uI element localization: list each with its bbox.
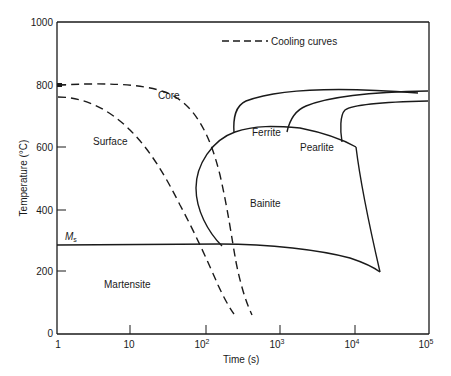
- x-tick-1: 1: [55, 339, 61, 350]
- y-tick-200: 200: [36, 266, 53, 277]
- x-tick-10000: 104: [344, 338, 359, 350]
- x-tick-1000: 103: [269, 338, 284, 350]
- core-label: Core: [158, 90, 180, 101]
- x-tick-100000: 105: [418, 338, 433, 350]
- core-cooling-curve: [58, 84, 252, 315]
- ferrite-label: Ferrite: [252, 127, 281, 138]
- core-start-marker: [57, 83, 62, 87]
- y-tick-600: 600: [36, 142, 53, 153]
- ms-label: Ms: [65, 231, 77, 243]
- legend: Cooling curves: [222, 36, 337, 47]
- y-tick-0: 0: [47, 328, 53, 339]
- pearlite-finish-curve: [341, 101, 428, 142]
- martensite-label: Martensite: [104, 279, 151, 290]
- surface-label: Surface: [93, 136, 128, 147]
- x-tick-100: 102: [194, 338, 209, 350]
- cct-diagram: 1000 800 600 400 200 0 1 10 102 103 104 …: [0, 0, 451, 376]
- pearlite-label: Pearlite: [300, 142, 334, 153]
- legend-label: Cooling curves: [271, 36, 337, 47]
- y-tick-400: 400: [36, 205, 53, 216]
- x-axis-title: Time (s): [223, 354, 259, 365]
- pearlite-start-curve: [287, 91, 428, 132]
- y-axis-title: Temperature (°C): [18, 140, 29, 217]
- x-tick-10: 10: [123, 339, 135, 350]
- x-axis-ticks: [130, 325, 355, 334]
- y-tick-1000: 1000: [31, 17, 54, 28]
- bainite-finish-curve: [356, 147, 380, 272]
- y-axis-ticks: [57, 85, 66, 271]
- y-tick-800: 800: [36, 80, 53, 91]
- ms-line: [57, 244, 380, 272]
- bainite-label: Bainite: [250, 198, 281, 209]
